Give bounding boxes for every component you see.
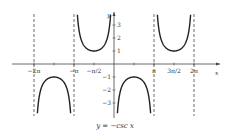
svg-text:−π: −π [70,67,79,74]
svg-text:−π/2: −π/2 [87,67,102,74]
svg-text:−3: −3 [102,99,111,106]
tick-labels: −2π−π−π/2π3π/22π123−1−2−3 [28,21,198,106]
svg-text:−2: −2 [102,86,111,93]
svg-text:1: 1 [117,47,121,54]
chart-caption: y = −csc x [0,122,230,130]
svg-text:3: 3 [117,21,121,28]
svg-text:x: x [215,69,219,76]
svg-text:3π/2: 3π/2 [167,67,181,74]
svg-text:2π: 2π [190,67,198,74]
svg-text:2: 2 [117,34,121,41]
svg-text:−1: −1 [102,73,111,80]
csc-graph: xy −2π−π−π/2π3π/22π123−1−2−3 [0,0,230,140]
svg-text:π: π [152,67,156,74]
svg-text:−2π: −2π [28,67,41,74]
